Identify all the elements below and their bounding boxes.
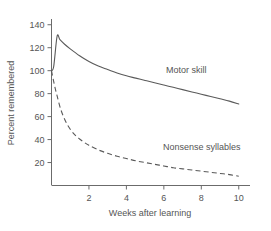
- y-axis-group: 20406080100120140 Percent remembered: [6, 19, 52, 185]
- series-annotations: Motor skillNonsense syllables: [163, 65, 241, 152]
- y-tick-labels: 20406080100120140: [29, 20, 44, 168]
- x-tick-label: 2: [86, 193, 91, 203]
- x-tick-label: 10: [234, 193, 244, 203]
- x-axis-group: 246810 Weeks after learning: [52, 186, 251, 219]
- series-line-motor-skill: [52, 35, 239, 104]
- series-annotation-label: Nonsense syllables: [163, 142, 241, 152]
- memory-retention-chart: 20406080100120140 Percent remembered 246…: [0, 0, 271, 231]
- data-series-group: [52, 35, 239, 177]
- y-tick-label: 40: [34, 135, 44, 145]
- series-line-nonsense-syllables: [52, 71, 239, 177]
- x-tick-label: 4: [124, 193, 129, 203]
- y-tick-label: 120: [29, 43, 44, 53]
- x-tick-labels: 246810: [86, 193, 243, 203]
- chart-canvas: 20406080100120140 Percent remembered 246…: [0, 0, 271, 231]
- x-tick-label: 8: [199, 193, 204, 203]
- y-tick-label: 140: [29, 20, 44, 30]
- y-tick-label: 20: [34, 158, 44, 168]
- y-axis-title: Percent remembered: [6, 61, 16, 146]
- y-tick-label: 60: [34, 112, 44, 122]
- x-tick-marks: [89, 186, 239, 190]
- y-tick-label: 100: [29, 66, 44, 76]
- series-annotation-label: Motor skill: [166, 65, 207, 75]
- x-axis-title: Weeks after learning: [109, 208, 191, 218]
- y-tick-label: 80: [34, 89, 44, 99]
- y-tick-marks: [48, 25, 52, 163]
- x-tick-label: 6: [161, 193, 166, 203]
